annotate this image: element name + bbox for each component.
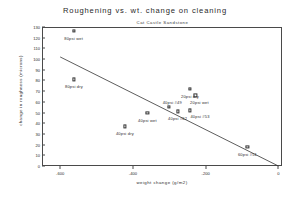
x-tick-mark — [132, 166, 133, 169]
data-point-label: 40psi #62 — [168, 116, 187, 121]
x-tick-mark — [205, 166, 206, 169]
y-tick-mark — [42, 133, 45, 134]
data-point-marker — [176, 110, 179, 113]
y-tick-label: 110 — [20, 46, 40, 51]
x-tick-label: -400 — [129, 171, 137, 176]
y-tick-mark — [42, 123, 45, 124]
y-tick-mark — [42, 144, 45, 145]
data-point-marker — [72, 30, 75, 33]
data-point-label: 40psi #53 — [190, 114, 209, 119]
y-tick-mark — [42, 101, 45, 102]
data-point-marker — [188, 87, 191, 90]
y-tick-label: 50 — [20, 110, 40, 115]
y-tick-label: 70 — [20, 89, 40, 94]
data-point-marker — [123, 125, 126, 128]
data-point-label: 20psi wet — [190, 100, 209, 105]
data-point-label: 80psi dry — [65, 84, 83, 89]
y-tick-label: 130 — [20, 25, 40, 30]
chart-figure: Roughening vs. wt. change on cleaning Ca… — [0, 0, 290, 200]
x-tick-label: -200 — [202, 171, 210, 176]
y-tick-label: 90 — [20, 67, 40, 72]
x-axis-ticks: -600-400-2000 — [42, 166, 282, 182]
y-tick-label: 80 — [20, 78, 40, 83]
x-tick-mark — [278, 166, 279, 169]
data-point-label: 60psi #51 — [238, 152, 257, 157]
data-point-marker — [246, 145, 249, 148]
data-point-marker — [194, 94, 197, 97]
data-point-label: 40psi dry — [116, 131, 134, 136]
y-tick-label: 10 — [20, 153, 40, 158]
y-axis-ticks: 0102030405060708090100110120130 — [16, 27, 40, 166]
data-layer: 80psi wet80psi dry40psi dry40psi wet40ps… — [42, 27, 282, 166]
y-tick-label: 30 — [20, 131, 40, 136]
y-tick-label: 20 — [20, 142, 40, 147]
y-tick-label: 0 — [20, 164, 40, 169]
y-tick-label: 120 — [20, 35, 40, 40]
y-tick-mark — [42, 48, 45, 49]
data-point-label: 40psi #49 — [163, 100, 182, 105]
y-tick-mark — [42, 91, 45, 92]
x-tick-mark — [60, 166, 61, 169]
chart-subtitle: Cat Castle Sandstone — [40, 20, 285, 25]
y-tick-mark — [42, 80, 45, 81]
data-point-marker — [188, 109, 191, 112]
data-point-marker — [168, 106, 171, 109]
data-point-label: 40psi wet — [138, 118, 157, 123]
y-tick-label: 60 — [20, 99, 40, 104]
data-point-marker — [146, 111, 149, 114]
y-tick-mark — [42, 37, 45, 38]
data-point-marker — [72, 78, 75, 81]
y-tick-mark — [42, 27, 45, 28]
y-tick-mark — [42, 59, 45, 60]
x-tick-label: 0 — [277, 171, 279, 176]
x-tick-label: -600 — [56, 171, 64, 176]
chart-title: Roughening vs. wt. change on cleaning — [0, 6, 290, 15]
y-tick-label: 100 — [20, 57, 40, 62]
data-point-label: 80psi wet — [64, 36, 83, 41]
y-tick-mark — [42, 166, 45, 167]
y-tick-mark — [42, 155, 45, 156]
y-tick-mark — [42, 69, 45, 70]
y-tick-label: 40 — [20, 121, 40, 126]
y-tick-mark — [42, 112, 45, 113]
